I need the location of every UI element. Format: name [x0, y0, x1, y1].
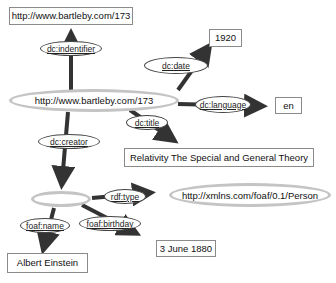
- predicate-creator: dc:creator: [38, 134, 100, 149]
- predicate-type: rdf:type: [104, 189, 146, 204]
- node-language-value: en: [275, 97, 302, 114]
- predicate-title: dc:title: [126, 115, 168, 130]
- node-birthday-value: 3 June 1880: [156, 240, 216, 257]
- predicate-name: foaf:name: [20, 218, 70, 233]
- predicate-identifier: dc:indentifier: [40, 41, 102, 56]
- node-person-class: http://xmlns.com/foaf/0.1/Person: [169, 183, 331, 207]
- predicate-language: dc:language: [195, 96, 251, 113]
- predicate-date: dc:date: [144, 57, 208, 74]
- node-title-value: Relativity The Special and General Theor…: [124, 148, 314, 167]
- node-name-value: Albert Einstein: [7, 253, 88, 273]
- node-subject: http://www.bartleby.com/173: [9, 89, 179, 112]
- predicate-birthday: foaf:birthday: [79, 216, 141, 231]
- node-date-value: 1920: [209, 29, 242, 47]
- node-identifier-value: http://www.bartleby.com/173: [9, 7, 133, 25]
- node-creator: [31, 191, 91, 207]
